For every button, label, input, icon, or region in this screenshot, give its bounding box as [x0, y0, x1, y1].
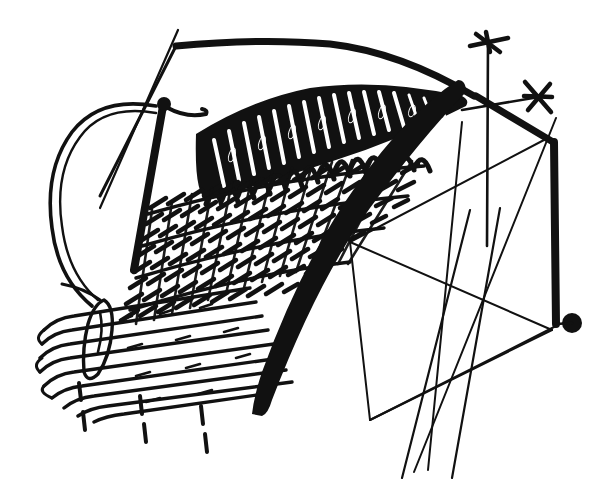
- needle-head: [157, 97, 171, 111]
- canvas-background: [0, 0, 601, 488]
- figure-root: Knitting illustration: needle and yarn t…: [0, 0, 601, 488]
- illustration-canvas: [0, 0, 601, 488]
